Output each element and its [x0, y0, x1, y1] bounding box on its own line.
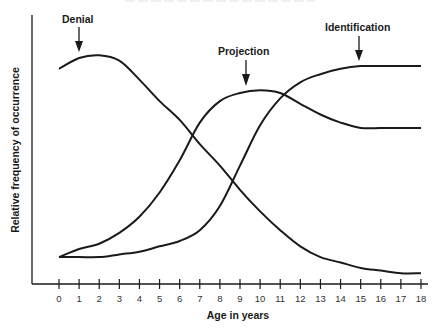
x-tick-label: 17: [396, 293, 407, 304]
x-tick-label: 2: [97, 293, 102, 304]
x-tick-label: 8: [217, 293, 222, 304]
denial-label: Denial: [62, 13, 94, 25]
projection-arrow-icon: [242, 60, 250, 86]
x-tick-label: 10: [255, 293, 266, 304]
identification-label: Identification: [325, 21, 390, 33]
x-axis-title: Age in years: [207, 309, 270, 321]
x-tick-label: 11: [275, 293, 285, 304]
x-tick-label: 15: [355, 293, 366, 304]
denial-arrow-icon: [75, 27, 83, 52]
projection-label: Projection: [218, 45, 269, 57]
x-tick-label: 12: [295, 293, 306, 304]
x-tick-label: 16: [375, 293, 386, 304]
identification-arrow-icon: [355, 36, 363, 61]
y-axis-title: Relative frequency of occurrence: [9, 67, 21, 233]
x-tick-label: 7: [197, 293, 202, 304]
x-tick-label: 14: [335, 293, 346, 304]
x-tick-label: 18: [416, 293, 427, 304]
x-tick-label: 0: [56, 293, 61, 304]
projection-curve: [59, 90, 421, 257]
x-tick-label: 3: [117, 293, 122, 304]
identification-curve: [59, 66, 421, 257]
x-tick-label: 4: [137, 293, 142, 304]
x-tick-label: 13: [315, 293, 326, 304]
chart: 0123456789101112131415161718 Denial Proj…: [0, 0, 440, 333]
x-tick-label: 9: [237, 293, 242, 304]
x-tick-label: 1: [76, 293, 81, 304]
x-tick-label: 6: [177, 293, 182, 304]
x-axis-tick-labels: 0123456789101112131415161718: [56, 293, 426, 304]
x-tick-label: 5: [157, 293, 162, 304]
